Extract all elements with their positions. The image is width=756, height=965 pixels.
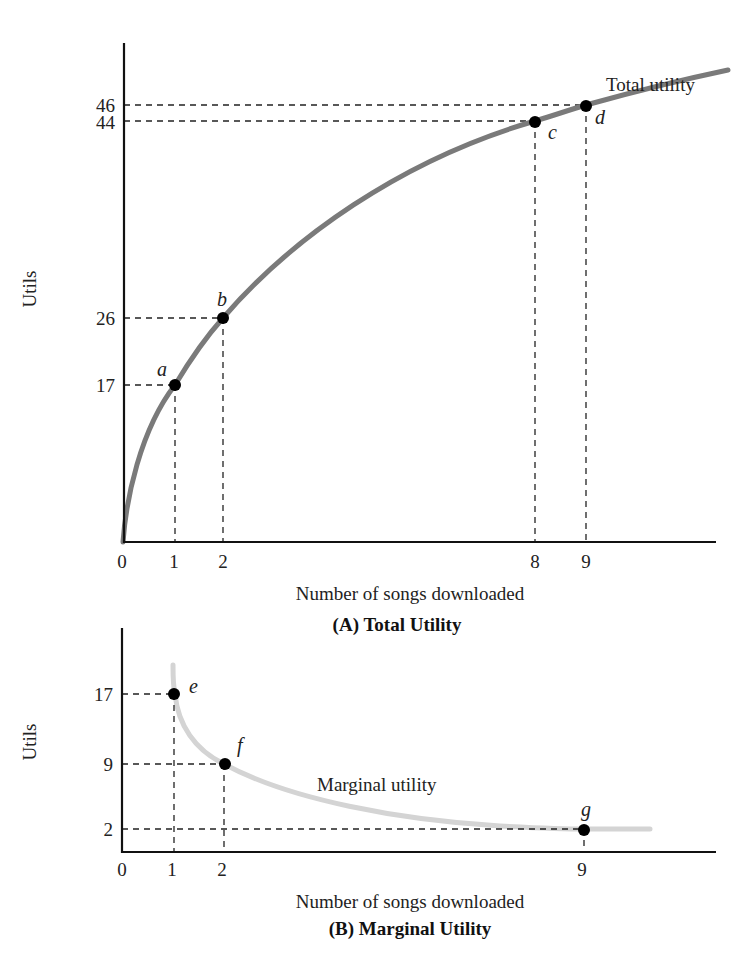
point-label-b: b bbox=[217, 288, 227, 310]
point-label-f: f bbox=[237, 734, 245, 757]
point-label-g: g bbox=[581, 798, 591, 821]
point-f bbox=[219, 758, 231, 770]
y-tick-44: 44 bbox=[96, 112, 116, 133]
point-label-c: c bbox=[548, 121, 557, 143]
x-tick-2-b: 2 bbox=[217, 859, 227, 880]
panel-b-marginal-utility: e f g Marginal utility 17 9 2 0 1 2 9 Nu… bbox=[19, 628, 716, 940]
x-tick-8: 8 bbox=[530, 551, 540, 572]
caption-a: (A) Total Utility bbox=[333, 614, 462, 636]
y-axis-label-a: Utils bbox=[19, 271, 40, 308]
total-utility-curve bbox=[123, 70, 728, 542]
point-c bbox=[529, 116, 541, 128]
y-tick-17: 17 bbox=[96, 375, 115, 396]
point-d bbox=[580, 100, 592, 112]
guide-lines-a bbox=[124, 105, 586, 541]
point-label-e: e bbox=[189, 675, 198, 697]
marginal-utility-curve bbox=[173, 665, 650, 829]
y-tick-9-b: 9 bbox=[104, 754, 114, 775]
utility-figure: a b c d Total utility 46 44 26 17 0 1 2 … bbox=[0, 0, 756, 965]
point-a bbox=[169, 379, 181, 391]
x-tick-9: 9 bbox=[581, 551, 591, 572]
caption-b: (B) Marginal Utility bbox=[329, 918, 492, 940]
y-tick-2-b: 2 bbox=[104, 819, 114, 840]
total-utility-label: Total utility bbox=[606, 74, 695, 95]
x-tick-0: 0 bbox=[117, 551, 127, 572]
point-label-d: d bbox=[595, 106, 606, 128]
x-tick-1-b: 1 bbox=[167, 859, 177, 880]
x-tick-0-b: 0 bbox=[117, 859, 127, 880]
panel-a-total-utility: a b c d Total utility 46 44 26 17 0 1 2 … bbox=[19, 43, 728, 636]
y-tick-17-b: 17 bbox=[94, 684, 113, 705]
x-axis-label-a: Number of songs downloaded bbox=[296, 583, 525, 604]
x-tick-1: 1 bbox=[169, 551, 179, 572]
x-axis-label-b: Number of songs downloaded bbox=[296, 891, 525, 912]
point-b bbox=[217, 312, 229, 324]
x-tick-9-b: 9 bbox=[577, 859, 587, 880]
data-points-a bbox=[169, 100, 592, 391]
point-g bbox=[578, 824, 590, 836]
point-label-a: a bbox=[157, 358, 167, 380]
point-e bbox=[168, 688, 180, 700]
marginal-utility-label: Marginal utility bbox=[317, 774, 437, 795]
x-tick-2: 2 bbox=[218, 551, 228, 572]
y-axis-label-b: Utils bbox=[19, 724, 40, 761]
y-tick-26: 26 bbox=[96, 308, 115, 329]
